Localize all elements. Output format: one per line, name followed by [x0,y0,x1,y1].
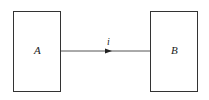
arrow-right-icon [105,49,112,54]
connection-wire [0,0,209,100]
current-label: i [107,36,110,47]
